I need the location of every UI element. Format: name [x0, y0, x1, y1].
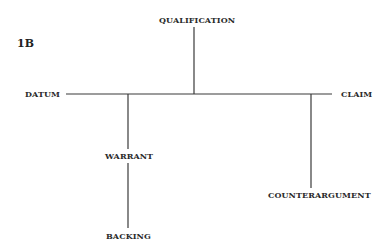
node-claim: CLAIM: [341, 89, 372, 99]
toulmin-diagram: 1B QUALIFICATION DATUM CLAIM WARRANT BAC…: [0, 0, 389, 249]
node-qualification: QUALIFICATION: [159, 15, 235, 25]
node-datum: DATUM: [25, 89, 60, 99]
node-warrant: WARRANT: [105, 151, 153, 161]
node-counterargument: COUNTERARGUMENT: [268, 190, 371, 200]
figure-label: 1B: [17, 38, 34, 50]
node-backing: BACKING: [106, 231, 151, 241]
diagram-lines: [0, 0, 389, 249]
